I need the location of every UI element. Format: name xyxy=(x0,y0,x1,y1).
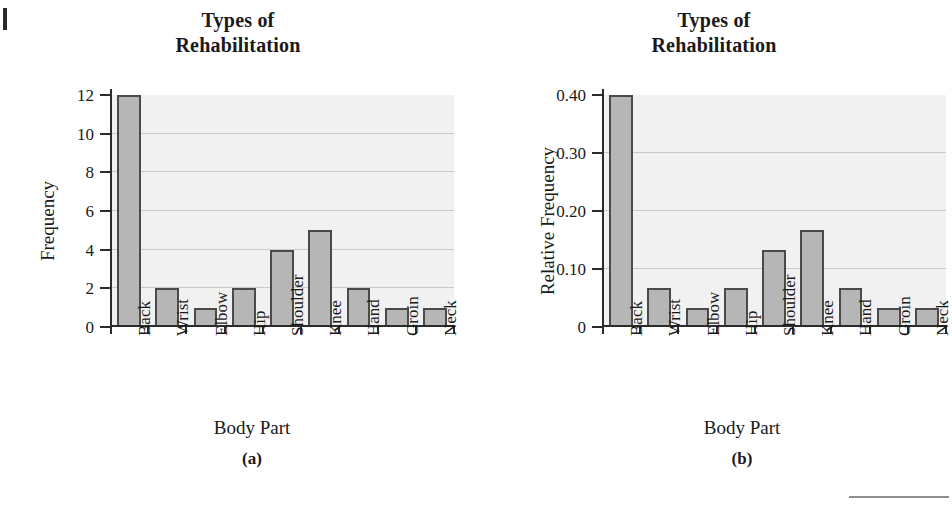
x-tick-label: Groin xyxy=(404,296,421,336)
y-tick: 0.40 xyxy=(592,94,604,96)
y-tick: 2 xyxy=(100,287,112,289)
x-tick-label: Wrist xyxy=(174,299,191,336)
gridline xyxy=(602,152,946,153)
x-tick-label: Hand xyxy=(857,299,874,336)
x-tick-label: Wrist xyxy=(666,299,683,336)
chart-title-a-line1: Types of xyxy=(0,8,476,33)
chart-title-b-line1: Types of xyxy=(476,8,952,33)
y-axis-title-b: Relative Frequency xyxy=(538,101,558,341)
y-tick: 6 xyxy=(100,210,112,212)
x-axis-title-b: Body Part xyxy=(504,417,952,439)
figure-b: Types of Rehabilitation Relative Frequen… xyxy=(476,0,952,511)
y-tick-label: 0 xyxy=(86,319,95,336)
chart-title-a: Types of Rehabilitation xyxy=(0,8,476,58)
gridline xyxy=(110,171,454,172)
y-tick: 12 xyxy=(100,94,112,96)
y-axis-line-a xyxy=(110,89,112,327)
y-tick-label: 0.40 xyxy=(556,87,586,104)
x-tick-label: Shoulder xyxy=(289,275,306,336)
x-tick-label: Shoulder xyxy=(781,275,798,336)
y-tick-label: 0.10 xyxy=(556,261,586,278)
y-tick: 10 xyxy=(100,133,112,135)
plot-area-a xyxy=(110,95,454,327)
x-tick-label: Hip xyxy=(251,311,268,337)
plot-a: 024681012 BackWristElbowHipShoulderKneeH… xyxy=(86,95,454,327)
y-tick: 0.10 xyxy=(592,268,604,270)
y-tick-label: 12 xyxy=(77,87,94,104)
y-tick: 0 xyxy=(592,326,604,328)
y-tick-label: 0 xyxy=(578,319,587,336)
x-tick-label: Elbow xyxy=(705,292,722,336)
x-tick-label: Groin xyxy=(896,296,913,336)
bar xyxy=(117,95,141,327)
y-tick: 0.20 xyxy=(592,210,604,212)
gridline xyxy=(110,133,454,134)
y-tick: 0.30 xyxy=(592,152,604,154)
y-tick-label: 10 xyxy=(77,125,94,142)
gridline xyxy=(602,210,946,211)
x-tick-label: Neck xyxy=(442,300,459,336)
x-tick-label: Neck xyxy=(934,300,951,336)
figure-a: Types of Rehabilitation Frequency 024681… xyxy=(0,0,476,511)
y-tick: 0 xyxy=(100,326,112,328)
x-tick-label: Back xyxy=(628,301,645,336)
x-tick-label: Hip xyxy=(743,311,760,337)
chart-title-b-line2: Rehabilitation xyxy=(476,33,952,58)
y-tick-label: 0.20 xyxy=(556,203,586,220)
x-tick-label: Knee xyxy=(819,300,836,336)
gridline xyxy=(110,210,454,211)
plot-b: 00.100.200.300.40 BackWristElbowHipShoul… xyxy=(578,95,946,327)
plot-area-b xyxy=(602,95,946,327)
x-axis-title-a: Body Part xyxy=(14,417,490,439)
x-tick-label: Hand xyxy=(365,299,382,336)
y-tick-label: 2 xyxy=(86,280,95,297)
figure-caption-b: (b) xyxy=(504,449,952,469)
x-tick-label: Elbow xyxy=(213,292,230,336)
y-tick-label: 0.30 xyxy=(556,145,586,162)
y-axis-title-a: Frequency xyxy=(38,141,58,301)
y-tick: 8 xyxy=(100,171,112,173)
figure-caption-a: (a) xyxy=(14,449,490,469)
y-tick-label: 8 xyxy=(86,164,95,181)
y-tick-label: 4 xyxy=(86,241,95,258)
figure-page: Types of Rehabilitation Frequency 024681… xyxy=(0,0,952,511)
y-axis-line-b xyxy=(602,89,604,327)
bar xyxy=(609,95,633,327)
chart-title-b: Types of Rehabilitation xyxy=(476,8,952,58)
chart-title-a-line2: Rehabilitation xyxy=(0,33,476,58)
y-tick-label: 6 xyxy=(86,203,95,220)
y-tick: 4 xyxy=(100,249,112,251)
x-tick-label: Back xyxy=(136,301,153,336)
x-tick-label: Knee xyxy=(327,300,344,336)
